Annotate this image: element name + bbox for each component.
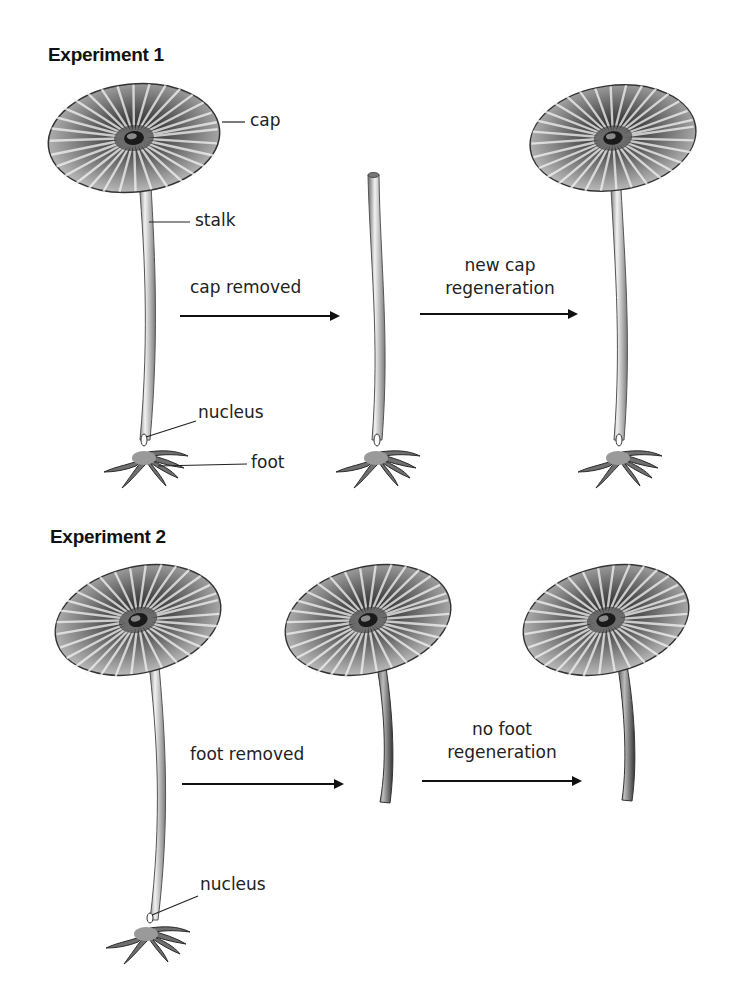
- step-new-cap-regeneration: new cap regeneration: [430, 254, 570, 300]
- exp2-stage2-cell: [273, 548, 462, 803]
- step-cap-removed: cap removed: [190, 277, 301, 297]
- label-stalk: stalk: [195, 210, 236, 230]
- label-nucleus-exp2: nucleus: [200, 874, 266, 894]
- label-foot: foot: [251, 452, 284, 472]
- step-line-1: no foot: [432, 718, 572, 741]
- diagram-artwork: [0, 0, 740, 990]
- experiment-2-heading: Experiment 2: [50, 526, 166, 548]
- experiment-1-heading: Experiment 1: [48, 44, 164, 66]
- label-cap: cap: [250, 110, 281, 130]
- step-foot-removed: foot removed: [190, 744, 304, 764]
- step-line-2: regeneration: [432, 741, 572, 764]
- step-line-1: new cap: [430, 254, 570, 277]
- label-nucleus: nucleus: [198, 402, 264, 422]
- step-no-foot-regeneration: no foot regeneration: [432, 718, 572, 764]
- exp1-stage2-cell: [336, 173, 420, 489]
- step-line-2: regeneration: [430, 277, 570, 300]
